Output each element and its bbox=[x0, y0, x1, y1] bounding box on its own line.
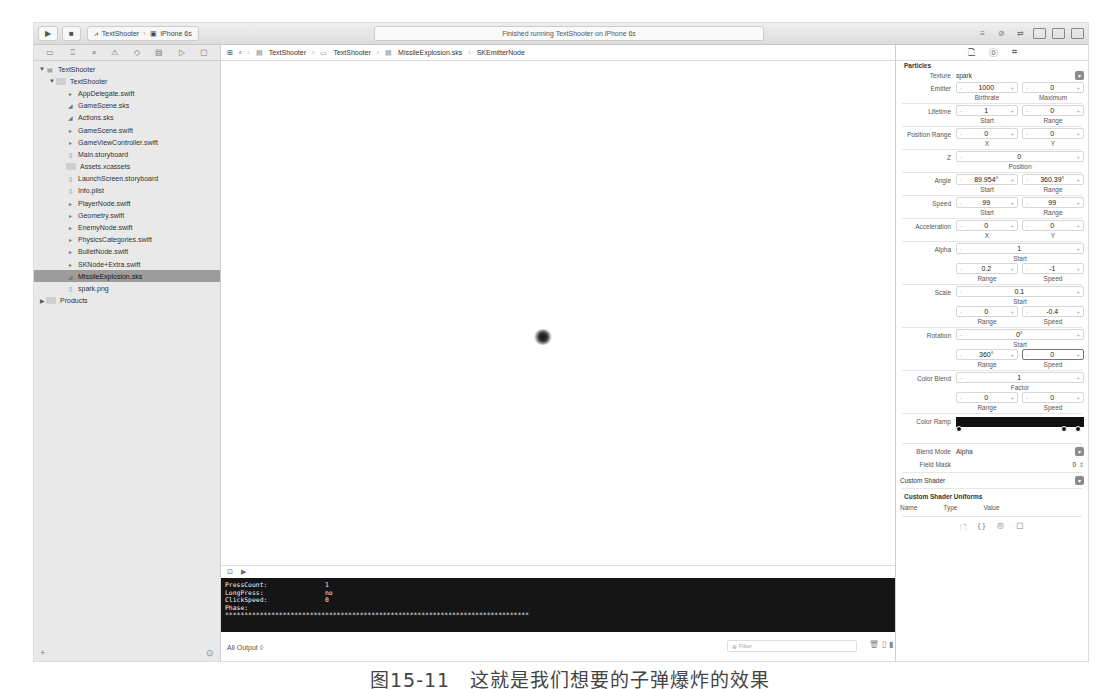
standard-editor-icon[interactable]: ≡ bbox=[976, 28, 989, 39]
breadcrumb-item[interactable]: TextShooter bbox=[269, 49, 306, 56]
toggle-utilities-icon[interactable] bbox=[1071, 28, 1084, 39]
toggle-debug-area-icon[interactable] bbox=[1052, 28, 1065, 39]
file-item[interactable]: ▸Geometry.swift bbox=[34, 209, 220, 221]
file-item[interactable]: ▯spark.png bbox=[34, 282, 220, 294]
folder-icon[interactable]: ▭ bbox=[46, 48, 54, 57]
debug-icon[interactable]: ▤ bbox=[155, 48, 163, 57]
test-icon[interactable]: ◇ bbox=[134, 48, 140, 57]
particle-emitter-preview[interactable] bbox=[534, 329, 552, 345]
disclosure-triangle-icon[interactable]: ▶ bbox=[38, 297, 46, 304]
numeric-field[interactable]: -0.1+ bbox=[956, 286, 1084, 297]
numeric-field[interactable]: -0+ bbox=[956, 151, 1084, 162]
toggle-navigator-icon[interactable] bbox=[1033, 28, 1046, 39]
numeric-field[interactable]: -0+ bbox=[1022, 128, 1084, 139]
version-editor-icon[interactable]: ⇄ bbox=[1014, 28, 1027, 39]
ramp-stop[interactable] bbox=[956, 426, 962, 432]
split-left-icon[interactable]: ▯ bbox=[882, 640, 886, 649]
file-item[interactable]: ▯Info.plist bbox=[34, 185, 220, 197]
attributes-inspector-icon[interactable]: ⌗ bbox=[1012, 47, 1017, 58]
object-library-icon[interactable]: ◎ bbox=[997, 521, 1004, 535]
hierarchy-icon[interactable]: ♖ bbox=[69, 48, 76, 57]
numeric-field[interactable]: --1+ bbox=[1022, 263, 1084, 274]
forward-button[interactable]: › bbox=[247, 49, 249, 56]
file-item[interactable]: ▸EnemyNode.swift bbox=[34, 221, 220, 233]
numeric-field[interactable]: -89.954°+ bbox=[956, 174, 1018, 185]
continue-icon[interactable]: ▶ bbox=[241, 568, 246, 576]
file-item[interactable]: ▯Main.storyboard bbox=[34, 148, 220, 160]
numeric-field[interactable]: -1+ bbox=[956, 105, 1018, 116]
numeric-field[interactable]: -0+ bbox=[1022, 82, 1084, 93]
filter-icon[interactable]: ⊙ bbox=[206, 648, 214, 658]
hide-debug-icon[interactable]: ⊡ bbox=[227, 568, 233, 576]
file-item[interactable]: ▸AppDelegate.swift bbox=[34, 87, 220, 99]
numeric-field[interactable]: -1+ bbox=[956, 372, 1084, 383]
disclosure-triangle-icon[interactable]: ▼ bbox=[38, 66, 46, 72]
ramp-stop[interactable] bbox=[1075, 426, 1081, 432]
file-item[interactable]: ◢Actions.sks bbox=[34, 112, 220, 124]
file-inspector-icon[interactable]: 🗋 bbox=[968, 45, 975, 61]
console-filter-input[interactable]: ⊕ Filter bbox=[727, 640, 857, 652]
numeric-field[interactable]: -360°+ bbox=[956, 349, 1018, 360]
numeric-field[interactable]: -0+ bbox=[1022, 220, 1084, 231]
file-item[interactable]: ▸GameScene.swift bbox=[34, 124, 220, 136]
run-button[interactable]: ▶ bbox=[38, 26, 58, 41]
numeric-field[interactable]: -99+ bbox=[956, 197, 1018, 208]
color-ramp[interactable] bbox=[956, 417, 1084, 427]
file-item[interactable]: ▯LaunchScreen.storyboard bbox=[34, 173, 220, 185]
related-items-icon[interactable]: ⊞ bbox=[227, 49, 233, 57]
breadcrumb-item[interactable]: MissileExplosion.sks bbox=[398, 49, 462, 56]
numeric-field[interactable]: -99+ bbox=[1022, 197, 1084, 208]
file-item[interactable]: ▸GameViewController.swift bbox=[34, 136, 220, 148]
ramp-stop[interactable] bbox=[1061, 426, 1067, 432]
numeric-field[interactable]: -360.39°+ bbox=[1022, 174, 1084, 185]
numeric-field[interactable]: -1000+ bbox=[956, 82, 1018, 93]
file-template-icon[interactable]: 🗋 bbox=[960, 521, 966, 535]
texture-dropdown-icon[interactable]: ▾ bbox=[1075, 71, 1084, 80]
file-item[interactable]: ▸BulletNode.swift bbox=[34, 246, 220, 258]
custom-shader-dropdown-icon[interactable]: ▾ bbox=[1075, 476, 1084, 485]
search-icon[interactable]: ⌕ bbox=[92, 48, 96, 58]
assistant-editor-icon[interactable]: ⊘ bbox=[995, 28, 1008, 39]
add-file-button[interactable]: + bbox=[40, 648, 45, 658]
numeric-field[interactable]: -0+ bbox=[956, 306, 1018, 317]
split-right-icon[interactable]: ▮ bbox=[889, 640, 893, 649]
file-item[interactable]: ▼▤TextShooter bbox=[34, 63, 220, 75]
numeric-field[interactable]: -0+ bbox=[1022, 349, 1084, 360]
file-item[interactable]: ◢GameScene.sks bbox=[34, 100, 220, 112]
disclosure-triangle-icon[interactable]: ▼ bbox=[48, 78, 56, 84]
file-item[interactable]: ▸PhysicsCategories.swift bbox=[34, 234, 220, 246]
trash-icon[interactable]: 🗑 bbox=[869, 640, 879, 649]
numeric-field[interactable]: -0+ bbox=[956, 220, 1018, 231]
breakpoint-icon[interactable]: ▷ bbox=[179, 48, 185, 57]
scene-canvas[interactable] bbox=[221, 61, 897, 565]
texture-value[interactable]: spark bbox=[956, 72, 972, 79]
breadcrumb-item[interactable]: SKEmitterNode bbox=[477, 49, 525, 56]
blend-mode-value[interactable]: Alpha bbox=[956, 448, 973, 455]
file-item[interactable]: ▶Products bbox=[34, 295, 220, 307]
code-snippet-icon[interactable]: { } bbox=[978, 521, 986, 535]
file-item[interactable]: ◢MissileExplosion.sks bbox=[34, 270, 220, 282]
report-icon[interactable]: ▢ bbox=[200, 48, 208, 57]
file-item[interactable]: ▸SKNode+Extra.swift bbox=[34, 258, 220, 270]
output-selector[interactable]: All Output ◊ bbox=[227, 644, 263, 651]
scheme-selector[interactable]: ⩘ TextShooter › ▣ iPhone 6s bbox=[87, 26, 199, 41]
stepper-icon[interactable]: ⇕ bbox=[1079, 461, 1084, 468]
numeric-field[interactable]: -0+ bbox=[956, 128, 1018, 139]
numeric-field[interactable]: -0°+ bbox=[956, 329, 1084, 340]
stop-button[interactable]: ■ bbox=[62, 26, 81, 41]
numeric-field[interactable]: -0+ bbox=[1022, 105, 1084, 116]
console-output[interactable]: PressCount:1LongPress:noClickSpeed:0Phas… bbox=[221, 578, 897, 632]
blend-mode-dropdown-icon[interactable]: ▾ bbox=[1075, 447, 1084, 456]
field-mask-value[interactable]: 0 bbox=[1072, 461, 1076, 468]
numeric-field[interactable]: -1+ bbox=[956, 243, 1084, 254]
back-button[interactable]: ‹ bbox=[239, 49, 241, 56]
numeric-field[interactable]: --0.4+ bbox=[1022, 306, 1084, 317]
help-inspector-icon[interactable]: ⓪ bbox=[989, 46, 998, 59]
breadcrumb-item[interactable]: TextShooter bbox=[333, 49, 370, 56]
file-item[interactable]: ▼TextShooter bbox=[34, 75, 220, 87]
numeric-field[interactable]: -0+ bbox=[956, 392, 1018, 403]
warning-icon[interactable]: ⚠ bbox=[111, 48, 118, 57]
numeric-field[interactable]: -0.2+ bbox=[956, 263, 1018, 274]
numeric-field[interactable]: -0+ bbox=[1022, 392, 1084, 403]
media-library-icon[interactable]: ▢ bbox=[1016, 521, 1024, 535]
